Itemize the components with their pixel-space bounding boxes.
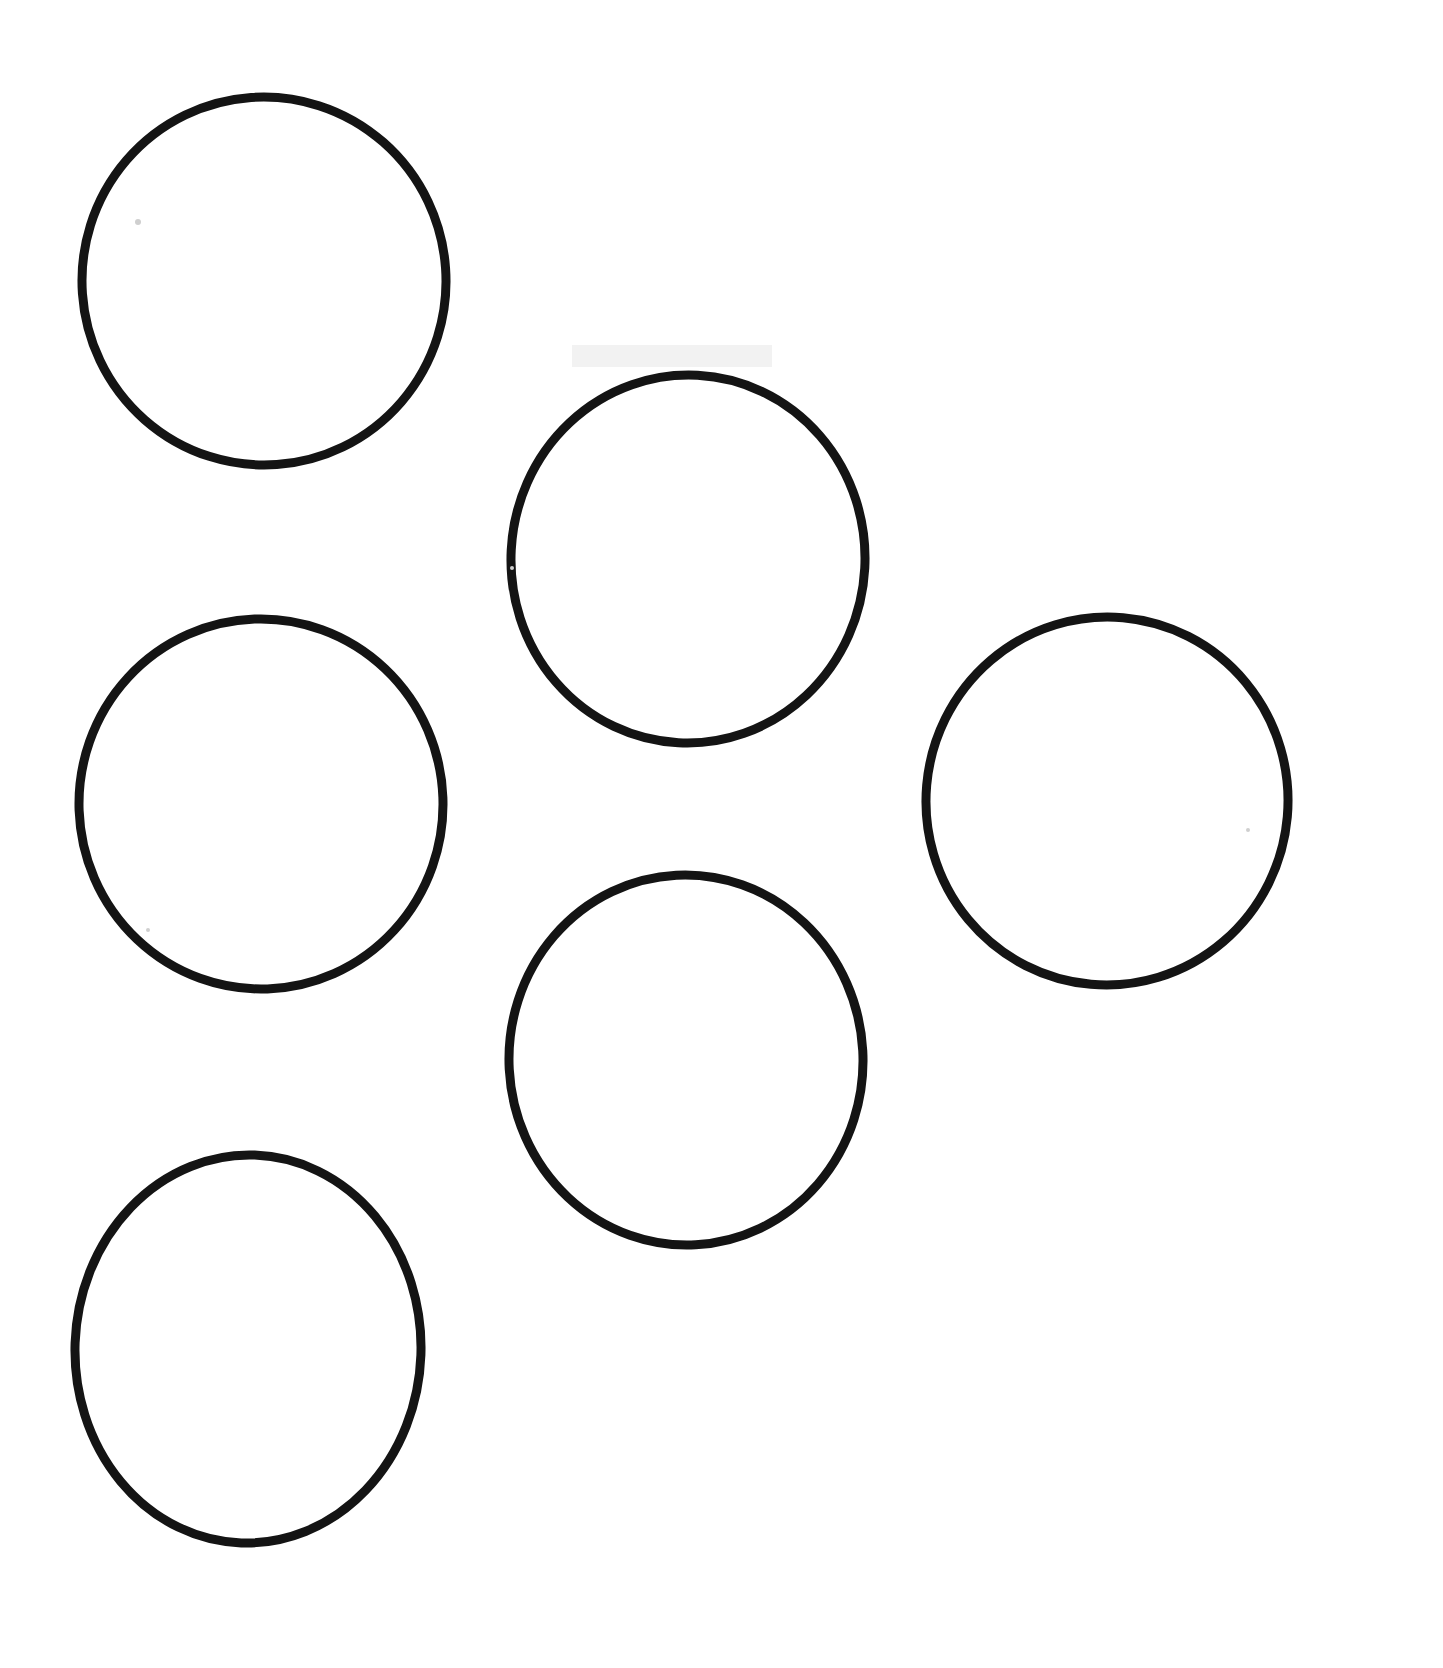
page-canvas — [0, 0, 1443, 1668]
circles-figure — [0, 0, 1443, 1668]
smudge-above-circle-2 — [572, 345, 772, 367]
speck-upper-left-inside-circle-1 — [135, 219, 141, 225]
speck-left-of-circle-2 — [510, 566, 514, 570]
paper-background — [0, 0, 1443, 1668]
speck-inside-circle-3 — [146, 928, 150, 932]
speck-inside-circle-4 — [1246, 828, 1250, 832]
smudge-layer — [572, 345, 772, 367]
